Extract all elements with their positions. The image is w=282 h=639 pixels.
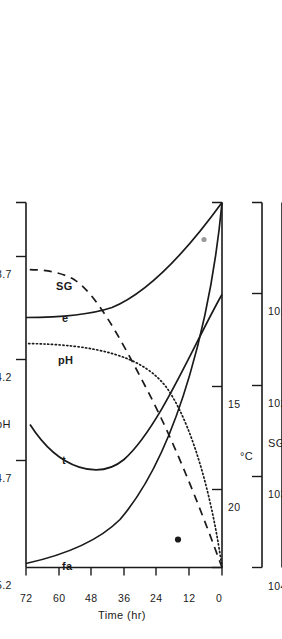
time-axis-tick-60: 60 <box>53 591 65 603</box>
temperature-axis-title: °C <box>240 449 253 461</box>
ph-axis-tick-47: 4.7 <box>0 471 12 483</box>
sg-scale-tick-1040: 1040 <box>268 579 282 591</box>
time-axis-tick-12: 12 <box>183 591 195 603</box>
time-axis-title: Time (hr) <box>98 608 146 620</box>
curve-sg <box>26 269 222 567</box>
temperature-axis-ticks <box>212 202 222 567</box>
temperature-axis-tick-15: 15 <box>228 397 240 409</box>
marker-sg-point <box>175 536 181 542</box>
time-axis-tick-0: 0 <box>216 591 222 603</box>
curve-label-ph: pH <box>58 353 73 365</box>
curve-label-fa: fa <box>62 559 73 571</box>
time-axis-tick-48: 48 <box>85 591 97 603</box>
chart-svg <box>0 0 282 639</box>
marker-e-point <box>201 236 206 241</box>
curve-e <box>26 202 222 317</box>
curve-label-t: t <box>62 453 66 465</box>
curve-t <box>30 294 222 469</box>
sg-scale-title: SG <box>268 436 282 448</box>
ph-axis-tick-37: 3.7 <box>0 267 12 279</box>
time-axis-tick-24: 24 <box>150 591 162 603</box>
curve-label-sg: SG <box>56 279 73 291</box>
curve-fa <box>26 202 222 563</box>
ph-axis-tick-52: 5.2 <box>0 578 12 590</box>
curve-label-e: e <box>62 311 69 323</box>
ph-axis-ticks <box>16 202 26 460</box>
rotated-figure-wrapper: 100 50 0 fa and e 5.2 4.7 4.2 3.7 pH 0 1… <box>0 0 282 639</box>
ph-axis-tick-42: 4.2 <box>0 370 12 382</box>
temperature-axis-tick-20: 20 <box>228 500 240 512</box>
sg-scale-tick-1030: 1030 <box>268 487 282 499</box>
sg-scale-tick-1020: 1020 <box>268 396 282 408</box>
sg-scale-tick-1010: 1010 <box>268 304 282 316</box>
time-axis-tick-36: 36 <box>118 591 130 603</box>
fermentation-chart: 100 50 0 fa and e 5.2 4.7 4.2 3.7 pH 0 1… <box>0 0 282 639</box>
time-axis-tick-72: 72 <box>20 591 32 603</box>
ph-axis-title: pH <box>0 417 11 429</box>
